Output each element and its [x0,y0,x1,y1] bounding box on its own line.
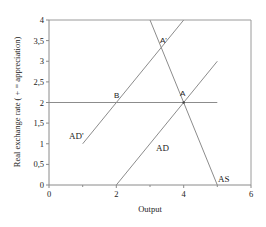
x-tick-label: 2 [114,189,118,199]
y-tick-label: 0 [40,180,44,190]
x-tick-labels: 0 2 4 6 [47,189,253,199]
as-curve-label: AS [218,174,230,184]
y-tick-label: 4 [40,15,45,25]
y-tick-label: 0,5 [33,159,44,169]
point-b-label: B [114,91,119,100]
y-tick-label: 3 [40,56,44,66]
ad-prime-curve [83,20,184,144]
ad-curve-label: AD [156,143,169,153]
chart: 0 0,5 1 1,5 2 2,5 3 3,5 4 0 2 4 6 A A' B [0,0,266,227]
ad-curve [116,61,217,185]
x-tick-label: 4 [182,189,187,199]
point-a-prime-label: A' [160,36,167,45]
y-tick-labels: 0 0,5 1 1,5 2 2,5 3 3,5 4 [33,15,44,190]
ad-prime-curve-label: AD' [69,131,84,141]
x-axis-title: Output [138,204,162,214]
y-tick-label: 1,5 [33,118,44,128]
curves [49,20,217,185]
y-axis-title: Real exchange rate ( + = appreciation) [12,37,22,168]
y-tick-label: 2 [40,98,44,108]
annotations: A A' B AS AD AD' [69,36,230,184]
y-tick-label: 3,5 [33,36,44,46]
point-a-marker [183,101,185,103]
point-a-label: A [180,89,186,98]
y-tick-label: 2,5 [33,77,44,87]
y-tick-label: 1 [40,139,44,149]
x-tick-label: 6 [249,189,253,199]
x-tick-label: 0 [47,189,51,199]
